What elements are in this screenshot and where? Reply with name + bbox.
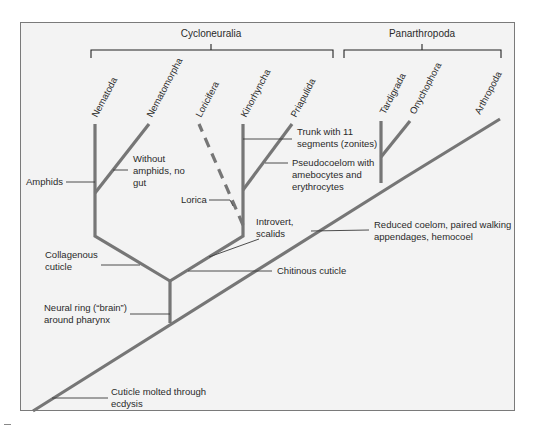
char-pseudocoelom-line2: amebocytes and xyxy=(292,169,362,180)
branch-loricifera-dashed xyxy=(199,124,243,225)
taxon-priapulida: Priapulida xyxy=(288,76,318,119)
char-introvert-line1: Introvert, xyxy=(256,216,294,227)
char-reduced-coelom-line2: appendages, hemocoel xyxy=(374,231,473,242)
cycloneuralia-bracket xyxy=(91,44,333,58)
clade-label-cycloneuralia: Cycloneuralia xyxy=(181,28,242,39)
char-cuticle-molted-line1: Cuticle molted through xyxy=(111,386,206,397)
branch-priapulida xyxy=(243,124,292,190)
taxon-nematoda: Nematoda xyxy=(89,74,120,118)
char-lorica: Lorica xyxy=(181,194,208,205)
taxon-tardigrada: Tardigrada xyxy=(377,71,408,116)
phylogeny-svg: Cycloneuralia Panarthropoda Nematoda Nem… xyxy=(0,0,535,433)
char-trunk-line2: segments (zonites) xyxy=(297,138,377,149)
clade-label-panarthropoda: Panarthropoda xyxy=(389,28,456,39)
char-introvert-line2: scalids xyxy=(256,228,285,239)
branch-onychophora xyxy=(381,121,410,157)
taxon-loricifera: Loricifera xyxy=(193,79,221,119)
char-pseudocoelom-line3: erythrocytes xyxy=(292,181,344,192)
char-neural-ring-line2: around pharynx xyxy=(44,314,110,325)
char-collagenous-line1: Collagenous xyxy=(45,249,98,260)
char-without-amphids-line1: Without xyxy=(133,153,166,164)
char-trunk-line1: Trunk with 11 xyxy=(297,126,353,137)
char-chitinous: Chitinous cuticle xyxy=(277,265,346,276)
char-amphids: Amphids xyxy=(26,176,63,187)
char-pseudocoelom-line1: Pseudocoelom with xyxy=(292,157,374,168)
char-cuticle-molted-line2: ecdysis xyxy=(111,398,143,409)
taxon-nematomorpha: Nematomorpha xyxy=(144,55,185,119)
panarthropoda-bracket xyxy=(344,44,501,58)
char-without-amphids-line3: gut xyxy=(133,177,147,188)
char-neural-ring-line1: Neural ring (“brain”) xyxy=(44,302,127,313)
char-without-amphids-line2: amphids, no xyxy=(133,165,185,176)
taxon-onychophora: Onychophora xyxy=(407,60,444,116)
char-collagenous-line2: cuticle xyxy=(45,261,72,272)
leader-lorica xyxy=(209,200,233,206)
taxon-arthropoda: Arthropoda xyxy=(472,69,504,116)
char-reduced-coelom-line1: Reduced coelom, paired walking xyxy=(374,219,511,230)
taxon-kinorhyncha: Kinorhyncha xyxy=(238,67,273,119)
